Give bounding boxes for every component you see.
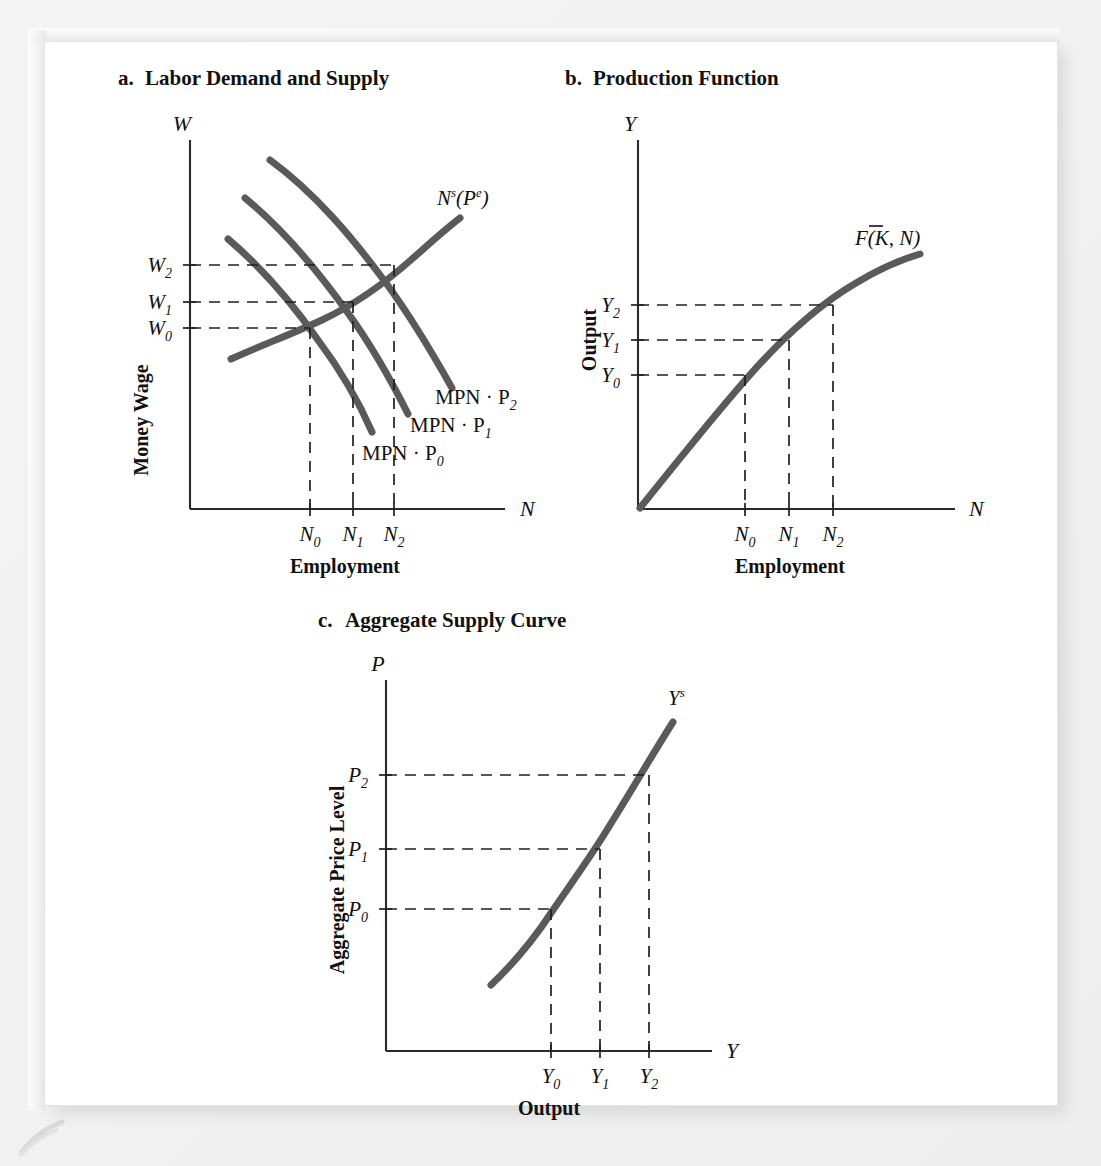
panel-a-mpn-p2-label: MPN · P2 xyxy=(435,385,517,413)
panel-b-title: Production Function xyxy=(593,66,779,90)
panel-a-letter: a. xyxy=(118,66,134,90)
panel-b: b. Production Function Y N Output Employ… xyxy=(565,66,985,578)
panel-b-x-axis-symbol: N xyxy=(968,496,985,521)
panel-a-y-axis-symbol: W xyxy=(173,111,193,136)
panel-c-x-tick-label-0: Y0 xyxy=(542,1064,561,1092)
panel-a-y-axis-name: Money Wage xyxy=(130,364,153,475)
panel-c-x-tick-label-2: Y2 xyxy=(640,1064,659,1092)
panel-a-mpn-p0-curve xyxy=(228,239,372,432)
panel-b-x-tick-label-0: N0 xyxy=(733,522,755,550)
panel-b-y-axis-name: Output xyxy=(578,309,601,372)
panel-c-y-tick-label-2: P2 xyxy=(347,763,368,791)
panel-a-y-tick-label-2: W2 xyxy=(148,253,173,281)
figure-svg: a. Labor Demand and Supply W N Money Wag… xyxy=(0,0,1101,1166)
panel-a-labor-supply-label: Ns(Pe) xyxy=(436,185,489,210)
panel-c-y-axis-name: Aggregate Price Level xyxy=(326,785,349,974)
panel-c-y-tick-label-0: P0 xyxy=(347,897,368,925)
panel-a-mpn-p1-label: MPN · P1 xyxy=(410,413,492,441)
panel-a-title: Labor Demand and Supply xyxy=(145,66,390,90)
panel-c-aggregate-supply-label: Ys xyxy=(668,685,685,710)
panel-a-x-tick-label-0: N0 xyxy=(298,522,320,550)
panel-b-y-tick-label-2: Y2 xyxy=(601,293,620,321)
panel-a-y-tick-label-1: W1 xyxy=(148,290,173,318)
panel-b-x-axis-name: Employment xyxy=(735,555,845,578)
panel-a-x-axis-name: Employment xyxy=(290,555,400,578)
panel-a-x-axis-symbol: N xyxy=(519,496,536,521)
panel-c-x-tick-label-1: Y1 xyxy=(591,1064,610,1092)
panel-b-x-tick-label-1: N1 xyxy=(777,522,799,550)
panel-b-y-tick-label-0: Y0 xyxy=(601,363,620,391)
panel-c-title: Aggregate Supply Curve xyxy=(345,608,566,632)
panel-a-mpn-p2-curve xyxy=(270,160,452,388)
panel-c-y-tick-label-1: P1 xyxy=(347,837,368,865)
panel-c-x-axis-symbol: Y xyxy=(726,1038,741,1063)
panel-b-letter: b. xyxy=(565,66,582,90)
panel-a-y-tick-label-0: W0 xyxy=(148,316,173,344)
panel-a-x-tick-label-2: N2 xyxy=(382,522,404,550)
panel-a: a. Labor Demand and Supply W N Money Wag… xyxy=(118,66,536,578)
panel-c-y-axis-symbol: P xyxy=(370,651,384,676)
panel-a-x-tick-label-1: N1 xyxy=(341,522,363,550)
panel-b-y-tick-label-1: Y1 xyxy=(601,328,620,356)
panel-c-x-axis-name: Output xyxy=(518,1097,581,1120)
panel-a-mpn-p1-curve xyxy=(245,198,408,414)
panel-a-mpn-p0-label: MPN · P0 xyxy=(362,441,444,469)
panel-c-aggregate-supply-curve xyxy=(491,722,673,985)
panel-b-production-function-label: F(K, N) xyxy=(854,226,920,250)
panel-b-x-tick-label-2: N2 xyxy=(821,522,843,550)
panel-b-y-axis-symbol: Y xyxy=(624,111,639,136)
panel-c-letter: c. xyxy=(318,608,333,632)
panel-b-production-function-curve xyxy=(640,254,920,508)
panel-c: c. Aggregate Supply Curve P Y Aggregate … xyxy=(318,608,741,1120)
